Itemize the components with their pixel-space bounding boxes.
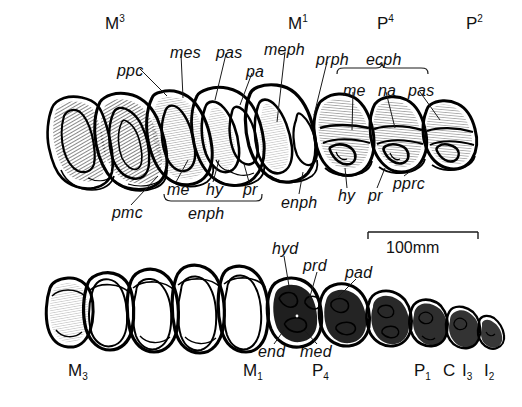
- cusp-label-pa: pa: [246, 64, 264, 80]
- cusp-label-na: na: [378, 83, 396, 99]
- cusp-label-med: med: [300, 344, 332, 360]
- cusp-label-pr-right: pr: [368, 188, 383, 204]
- cusp-label-ecph: ecph: [366, 52, 402, 68]
- upper-tooth-P2: [423, 101, 477, 170]
- scale-bar-label: 100mm: [386, 240, 439, 256]
- cusp-label-me-upper: me: [343, 83, 366, 99]
- cusp-label-ppc: ppc: [117, 63, 143, 79]
- cusp-label-mes: mes: [170, 45, 201, 61]
- cusp-label-end: end: [258, 344, 285, 360]
- tooth-label-lower-P4: P4: [312, 362, 329, 382]
- tooth-label-upper-M3: M3: [105, 14, 125, 32]
- cusp-label-me: me: [167, 182, 190, 198]
- tooth-label-upper-M1: M1: [288, 14, 308, 32]
- lower-tooth-C: [446, 307, 480, 349]
- tooth-label-lower-M1: M1: [243, 362, 263, 382]
- tooth-label-lower-C: C: [443, 362, 455, 379]
- cusp-label-pr: pr: [243, 182, 258, 198]
- tooth-label-lower-P1: P1: [414, 362, 431, 382]
- tooth-label-lower-M3: M3: [68, 362, 88, 382]
- lower-tooth-P2: [366, 291, 411, 346]
- lower-tooth-M1: [172, 265, 224, 353]
- upper-tooth-M1: [192, 87, 265, 185]
- cusp-label-pmc: pmc: [112, 205, 143, 221]
- dental-anatomy-figure: M3 M1 P4 P2 ppc mes pas pa meph prph ecp…: [0, 0, 522, 407]
- cusp-label-meph: meph: [264, 42, 305, 58]
- cusp-label-prd: prd: [303, 258, 327, 274]
- cusp-label-hy: hy: [206, 182, 223, 198]
- lower-tooth-P3: [319, 284, 370, 346]
- cusp-label-pas-premolar: pas: [408, 83, 434, 99]
- cusp-label-prph: prph: [316, 52, 349, 68]
- tooth-label-lower-I3: I3: [462, 362, 472, 382]
- lower-tooth-P1: [409, 300, 447, 347]
- tooth-label-upper-P2: P2: [466, 14, 483, 32]
- upper-tooth-P4: [314, 94, 374, 176]
- cusp-label-enph-right: enph: [281, 195, 317, 211]
- tooth-label-lower-I2: I2: [484, 362, 494, 382]
- cusp-label-hy-right: hy: [338, 188, 355, 204]
- cusp-label-enph: enph: [188, 206, 224, 222]
- cusp-label-pas: pas: [216, 45, 242, 61]
- tooth-label-upper-P4: P4: [377, 14, 394, 32]
- cusp-label-hyd: hyd: [272, 241, 298, 257]
- scale-bar: [368, 232, 478, 239]
- lower-teeth-incisors: [478, 316, 504, 349]
- cusp-label-pprc: pprc: [393, 176, 425, 192]
- upper-tooth-P3: [370, 97, 427, 173]
- lower-tooth-P4: [267, 278, 321, 347]
- cusp-label-pad: pad: [345, 265, 372, 281]
